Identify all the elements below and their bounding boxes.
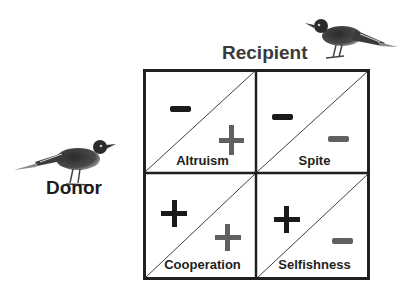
altruism-recipient-plus-icon: [219, 125, 244, 155]
altruism-donor-minus-icon: [170, 106, 191, 112]
payoff-matrix-grid: [144, 70, 369, 279]
cell-label-selfishness: Selfishness: [258, 257, 371, 272]
spite-donor-minus-icon: [272, 114, 293, 120]
interaction-matrix-graphic: [0, 0, 416, 294]
bird-top-right-image: [305, 19, 398, 58]
cooperation-recipient-plus-icon: [215, 224, 241, 251]
selfishness-donor-plus-icon: [274, 206, 300, 233]
donor-axis-label: Donor: [46, 177, 102, 199]
cell-label-cooperation: Cooperation: [146, 257, 259, 272]
selfishness-recipient-minus-icon: [332, 238, 353, 244]
spite-recipient-minus-icon: [328, 136, 349, 142]
cell-label-altruism: Altruism: [146, 153, 259, 168]
cell-label-spite: Spite: [258, 153, 371, 168]
recipient-axis-label: Recipient: [222, 42, 308, 64]
cooperation-donor-plus-icon: [161, 200, 187, 227]
